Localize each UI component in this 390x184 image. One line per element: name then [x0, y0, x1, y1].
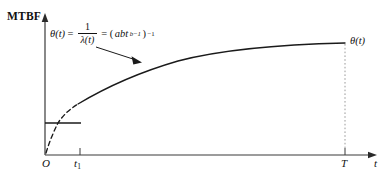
equation-rhs-open-paren: ( — [110, 28, 114, 39]
equation-equals-1: = — [68, 28, 74, 39]
equation-denominator: λ(t) — [78, 34, 98, 45]
equation-numerator: 1 — [82, 22, 93, 33]
mtbf-curve-solid-segment — [78, 43, 345, 104]
x-tick-label-t1: t1 — [74, 158, 81, 171]
equation-fraction: 1 λ(t) — [78, 22, 98, 45]
equation-rhs-inner-exponent-text: b−1 — [130, 30, 141, 37]
equation-rhs-close-paren: ) — [143, 28, 147, 39]
equation-pointer-arrowhead-icon — [132, 56, 143, 64]
equation-rhs-base: abt — [115, 28, 128, 39]
mtbf-curve-dashed-segment — [46, 104, 78, 153]
x-axis-label: t — [374, 158, 377, 169]
y-axis-arrow-icon — [42, 13, 49, 22]
equation-pointer-arrow-line — [96, 47, 136, 60]
mtbf-growth-figure: MTBF O t1 T t θ(t) θ(t) = 1 λ(t) = (abtb… — [0, 0, 390, 184]
y-axis-label: MTBF — [7, 11, 41, 23]
equation-annotation: θ(t) = 1 λ(t) = (abtb−1)−1 — [50, 22, 155, 45]
equation-equals-2: = — [101, 28, 107, 39]
x-tick-label-T: T — [341, 158, 347, 169]
origin-label: O — [42, 158, 50, 169]
equation-lhs: θ(t) — [50, 28, 65, 39]
t1-subscript: 1 — [77, 162, 81, 171]
curve-label-theta: θ(t) — [350, 36, 365, 47]
